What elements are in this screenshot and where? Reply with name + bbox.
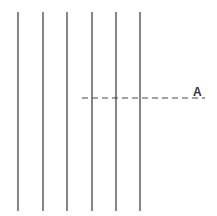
line-diagram <box>0 0 217 216</box>
diagram-canvas: A <box>0 0 217 216</box>
label-a: A <box>193 86 202 98</box>
